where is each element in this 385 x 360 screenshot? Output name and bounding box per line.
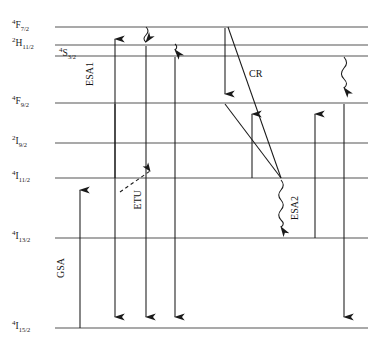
level-lines [55,27,368,328]
level-label-F72: 4F7/2 [12,20,29,30]
process-label-etu: ETU [132,190,143,209]
level-label-H112-sub: 11/2 [22,43,33,50]
energy-level-diagram: 4F7/2 2H11/2 4S3/2 4F9/2 2I9/2 4I11/2 4I… [0,0,385,360]
level-label-I132-sub: 13/2 [19,236,31,243]
transition-esa2-wavy [279,180,284,227]
process-label-cr: CR [249,68,262,79]
level-label-F92-sub: 9/2 [21,101,29,108]
level-label-I152: 4I15/2 [12,321,30,331]
process-label-gsa: GSA [55,258,66,278]
transition-nonrad-top-1 [144,27,148,42]
level-label-F72-sub: 7/2 [21,25,29,32]
transition-cr-diagonal-2 [225,104,281,178]
level-label-I92-sub: 9/2 [19,141,27,148]
level-label-I112: 4I11/2 [12,171,30,181]
level-label-S32-sub: 3/2 [68,53,76,60]
level-label-H112: 2H11/2 [12,38,34,48]
transition-nonrad-right [342,57,347,88]
level-label-I132: 4I13/2 [12,231,30,241]
process-label-esa2: ESA2 [289,196,300,220]
diagram-canvas [0,0,385,360]
level-label-I112-sub: 11/2 [19,176,30,183]
level-label-I92: 2I9/2 [12,136,27,146]
level-label-I152-sub: 15/2 [19,326,31,333]
level-label-S32: 4S3/2 [59,48,76,58]
process-label-esa1: ESA1 [84,62,95,86]
transition-nonrad-top-2 [175,44,177,50]
level-label-F92: 4F9/2 [12,96,29,106]
